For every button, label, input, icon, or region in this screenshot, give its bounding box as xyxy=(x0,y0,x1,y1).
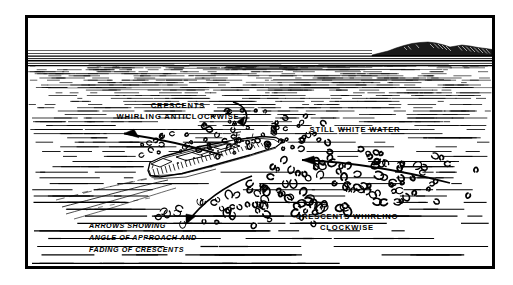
illustration-canvas: CRESCENTSWHIRLING ANTICLOCKWISESTILL WHI… xyxy=(0,0,513,285)
caption-arrows-explanation-line-2: ANGLE OF APPROACH AND xyxy=(88,233,197,242)
label-still-white-water: STILL WHITE WATER xyxy=(310,125,401,134)
label-crescents-clockwise-line-1: CRESCENTS WHIRLING xyxy=(296,212,399,221)
caption-arrows-explanation-line-1: ARROWS SHOWING xyxy=(88,221,166,230)
caption-arrows-explanation-line-3: FADING OF CRESCENTS xyxy=(89,245,184,254)
label-crescents-anticlockwise-line-2: WHIRLING ANTICLOCKWISE xyxy=(116,112,239,121)
illustration-figure: CRESCENTSWHIRLING ANTICLOCKWISESTILL WHI… xyxy=(0,0,513,285)
label-crescents-anticlockwise-line-1: CRESCENTS xyxy=(151,101,205,110)
label-crescents-clockwise-line-2: CLOCKWISE xyxy=(320,223,374,232)
label-still-white-water-line-1: STILL WHITE WATER xyxy=(310,125,401,134)
